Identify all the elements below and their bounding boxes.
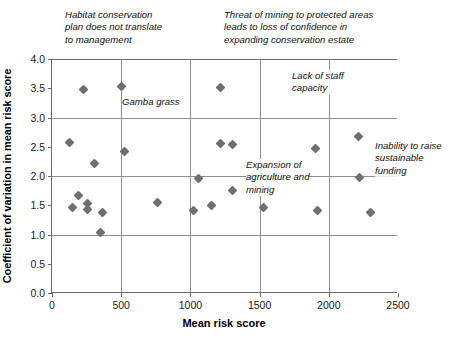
plot-frame-top: [52, 59, 397, 60]
x-tick-mark: [190, 293, 191, 297]
y-tick-label: 4.0: [30, 53, 45, 65]
data-point: [215, 138, 225, 148]
annotation-lack-of-staff-capacity: Lack of staff capacity: [292, 70, 344, 95]
data-point: [365, 208, 375, 218]
y-tick-mark: [48, 59, 52, 60]
y-tick-label: 2.0: [30, 170, 45, 182]
y-tick-label: 1.5: [30, 199, 45, 211]
data-point: [354, 131, 364, 141]
x-tick-mark: [329, 293, 330, 297]
annotation-threat-of-mining: Threat of mining to protected areas lead…: [224, 9, 373, 46]
data-point: [116, 82, 126, 92]
x-tick-label: 1500: [248, 299, 271, 311]
x-tick-mark: [121, 293, 122, 297]
x-tick-mark: [260, 293, 261, 297]
x-tick-label: 0: [49, 299, 55, 311]
y-tick-mark: [48, 118, 52, 119]
y-tick-label: 0.5: [30, 258, 45, 270]
data-point: [311, 144, 321, 154]
plot-area: 0.00.51.01.52.02.53.03.54.0 050010001500…: [51, 59, 397, 293]
scatter-chart-figure: Coefficient of variation in mean risk sc…: [0, 0, 451, 340]
y-tick-label: 0.0: [30, 287, 45, 299]
x-tick-mark: [398, 293, 399, 297]
data-point: [89, 159, 99, 169]
x-tick-mark: [52, 293, 53, 297]
x-axis-title: Mean risk score: [51, 317, 397, 329]
data-point: [95, 227, 105, 237]
data-point: [78, 84, 88, 94]
x-tick-label: 2000: [317, 299, 340, 311]
y-tick-label: 2.5: [30, 141, 45, 153]
y-tick-label: 3.0: [30, 112, 45, 124]
data-point: [228, 185, 238, 195]
data-point: [73, 191, 83, 201]
y-axis-title: Coefficient of variation in mean risk sc…: [0, 59, 16, 293]
x-tick-label: 2500: [386, 299, 409, 311]
y-tick-label: 3.5: [30, 82, 45, 94]
y-tick-mark: [48, 205, 52, 206]
y-tick-mark: [48, 235, 52, 236]
x-tick-label: 500: [112, 299, 130, 311]
gridline-horizontal: [52, 176, 397, 177]
y-tick-mark: [48, 147, 52, 148]
data-point: [65, 138, 75, 148]
y-tick-mark: [48, 176, 52, 177]
gridline-vertical: [121, 59, 122, 292]
gridline-vertical: [190, 59, 191, 292]
gridline-horizontal: [52, 235, 397, 236]
data-point: [215, 82, 225, 92]
data-point: [83, 205, 93, 215]
y-tick-mark: [48, 264, 52, 265]
y-tick-mark: [48, 88, 52, 89]
data-point: [228, 140, 238, 150]
data-point: [98, 208, 108, 218]
annotation-habitat-conservation: Habitat conservation plan does not trans…: [65, 9, 162, 46]
data-point: [68, 202, 78, 212]
annotation-inability-to-raise-funding: Inability to raise sustainable funding: [375, 140, 442, 177]
annotation-gamba-grass: Gamba grass: [122, 96, 180, 108]
x-tick-label: 1000: [179, 299, 202, 311]
y-tick-label: 1.0: [30, 229, 45, 241]
data-point: [206, 200, 216, 210]
data-point: [313, 206, 323, 216]
data-point: [355, 173, 365, 183]
data-point: [153, 197, 163, 207]
gridline-horizontal: [52, 118, 397, 119]
annotation-expansion-of-agriculture: Expansion of agriculture and mining: [246, 159, 309, 196]
